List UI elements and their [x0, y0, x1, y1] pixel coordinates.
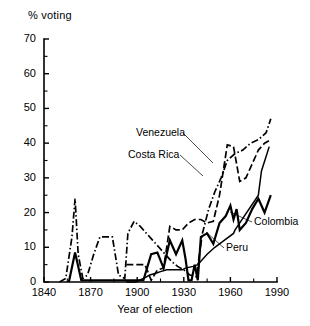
y-tick-label-70: 70 — [14, 32, 36, 44]
x-tick-label-1930: 1930 — [164, 286, 204, 298]
y-tick-label-50: 50 — [14, 101, 36, 113]
x-tick-label-1990: 1990 — [257, 286, 297, 298]
series-label-peru: Peru — [226, 241, 248, 253]
x-axis-title: Year of election — [0, 303, 310, 315]
x-tick-label-1840: 1840 — [24, 286, 64, 298]
y-tick-label-40: 40 — [14, 136, 36, 148]
y-tick-label-30: 30 — [14, 171, 36, 183]
chart-container: % voting 010203040506070 184018701900193… — [0, 0, 310, 326]
chart-series-group — [60, 119, 271, 282]
y-tick-label-10: 10 — [14, 240, 36, 252]
series-label-venezuela: Venezuela — [136, 126, 185, 138]
series-line-peru — [126, 147, 269, 282]
y-tick-label-60: 60 — [14, 67, 36, 79]
chart-plot-area — [0, 0, 310, 326]
x-tick-label-1900: 1900 — [117, 286, 157, 298]
series-label-costa-rica: Costa Rica — [128, 148, 179, 160]
x-tick-label-1960: 1960 — [210, 286, 250, 298]
x-tick-label-1870: 1870 — [71, 286, 111, 298]
series-label-colombia: Colombia — [254, 215, 298, 227]
y-tick-label-20: 20 — [14, 206, 36, 218]
